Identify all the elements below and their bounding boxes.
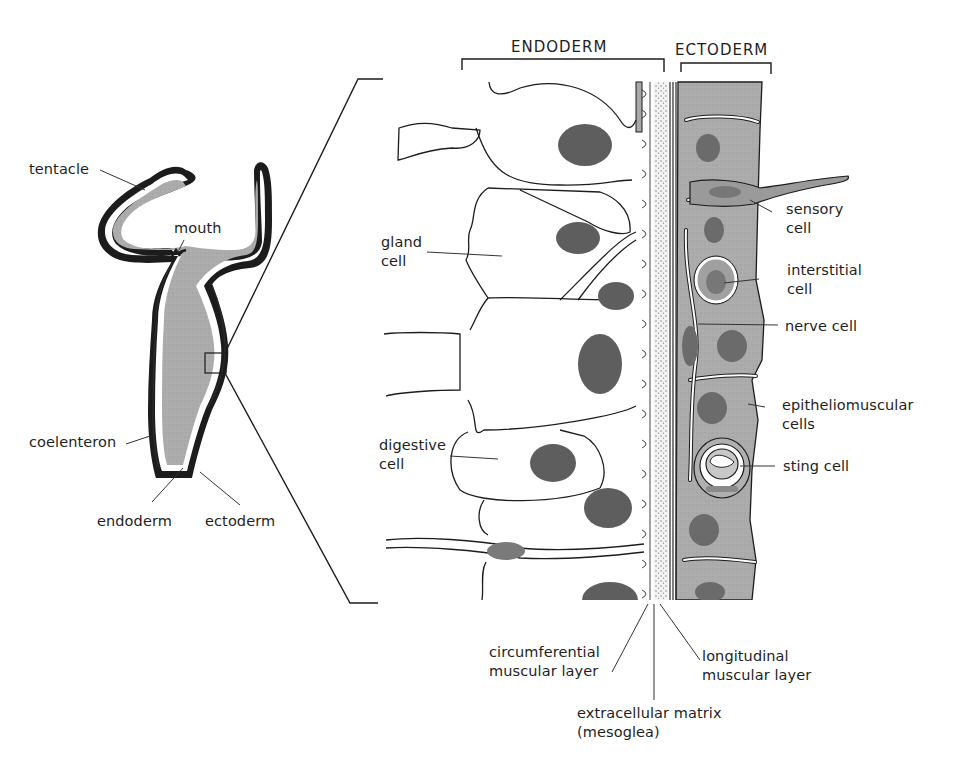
endoderm-bracket (462, 59, 664, 72)
longitudinal-muscle (670, 82, 676, 600)
endo-nucleus-7 (487, 542, 525, 560)
label-circumferential-muscular-layer: circumferential muscular layer (489, 643, 600, 681)
endo-nucleus-6 (584, 488, 632, 528)
zoom-projection-top (225, 79, 383, 353)
sting-cell (694, 438, 750, 498)
endo-nucleus-5 (530, 444, 576, 482)
label-tentacle: tentacle (29, 160, 89, 179)
label-gland-cell: gland cell (381, 233, 422, 271)
label-nerve-cell: nerve cell (785, 317, 857, 336)
endo-nucleus-2 (556, 222, 600, 254)
label-epitheliomuscular-cells: epitheliomuscular cells (782, 396, 914, 434)
mesoglea (654, 82, 668, 600)
coelenteron-leader (126, 436, 150, 444)
ectoderm-leader (200, 472, 240, 505)
label-interstitial-cell: interstitial cell (787, 261, 862, 299)
label-endoderm: endoderm (97, 512, 172, 531)
label-longitudinal-muscular-layer: longitudinal muscular layer (702, 647, 811, 685)
endo-nucleus-3 (598, 282, 634, 310)
interstitial-nucleus (706, 270, 726, 294)
header-ectoderm: ECTODERM (675, 41, 768, 59)
ectoderm-gap-cell-top (636, 82, 642, 132)
label-extracellular-matrix: extracellular matrix (mesoglea) (577, 704, 722, 742)
body-wall-detail (380, 59, 848, 700)
tentacle-leader (100, 170, 145, 190)
label-sting-cell: sting cell (783, 457, 849, 476)
label-coelenteron: coelenteron (29, 433, 116, 452)
label-mouth: mouth (174, 219, 222, 238)
sensory-nucleus (709, 186, 741, 198)
endo-nucleus-1 (558, 124, 612, 166)
zoom-projection-bottom (225, 373, 378, 603)
endoderm-cells (384, 82, 644, 618)
label-digestive-cell: digestive cell (379, 436, 446, 474)
header-endoderm: ENDODERM (511, 38, 607, 56)
label-sensory-cell: sensory cell (786, 200, 843, 238)
detail-bottom-mask (380, 600, 780, 620)
label-ectoderm: ectoderm (205, 512, 275, 531)
circumferential-muscle (642, 82, 650, 600)
ectoderm-bracket (681, 63, 771, 74)
endo-nucleus-4 (578, 334, 622, 394)
